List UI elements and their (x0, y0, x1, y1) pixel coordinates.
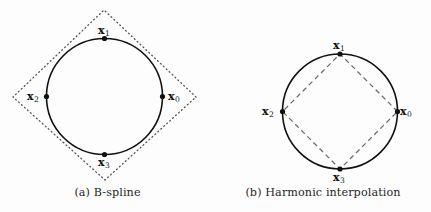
curve-circle (47, 39, 163, 155)
point-marker-x2 (280, 109, 285, 114)
point-label-variable: x (333, 39, 340, 52)
point-label-x2: x2 (27, 91, 39, 104)
point-marker-x0 (160, 94, 165, 99)
point-label-variable: x (262, 105, 269, 118)
point-label-subscript: 1 (105, 29, 110, 38)
panel-b-diagram (215, 0, 431, 212)
panel-b-harmonic-interpolation: (b) Harmonic interpolation x0x1x2x3 (215, 0, 431, 212)
point-label-variable: x (400, 105, 407, 118)
point-label-x2: x2 (262, 106, 274, 119)
point-label-x3: x3 (98, 157, 110, 170)
point-label-subscript: 0 (175, 95, 180, 104)
point-label-x1: x1 (333, 40, 345, 53)
point-label-variable: x (98, 156, 105, 169)
control-point-markers (44, 36, 165, 157)
point-label-subscript: 3 (105, 161, 110, 170)
point-label-x3: x3 (333, 172, 345, 185)
curve-circle (283, 54, 398, 169)
interpolation-point-markers (280, 51, 400, 171)
point-label-variable: x (27, 90, 34, 103)
point-label-subscript: 1 (340, 44, 345, 53)
panel-b-caption: (b) Harmonic interpolation (215, 186, 431, 199)
point-label-subscript: 2 (34, 95, 39, 104)
figure-root: (a) B-spline x0x1x2x3 (b) Harmonic inter… (0, 0, 431, 212)
panel-a-caption: (a) B-spline (0, 186, 215, 199)
panel-a-bspline: (a) B-spline x0x1x2x3 (0, 0, 215, 212)
point-label-variable: x (98, 24, 105, 37)
point-label-variable: x (333, 171, 340, 184)
point-marker-x2 (44, 94, 49, 99)
point-label-x0: x0 (168, 91, 180, 104)
point-label-subscript: 3 (340, 176, 345, 185)
point-label-x1: x1 (98, 25, 110, 38)
point-label-variable: x (168, 90, 175, 103)
point-label-subscript: 0 (407, 110, 412, 119)
point-label-subscript: 2 (269, 110, 274, 119)
point-label-x0: x0 (400, 106, 412, 119)
